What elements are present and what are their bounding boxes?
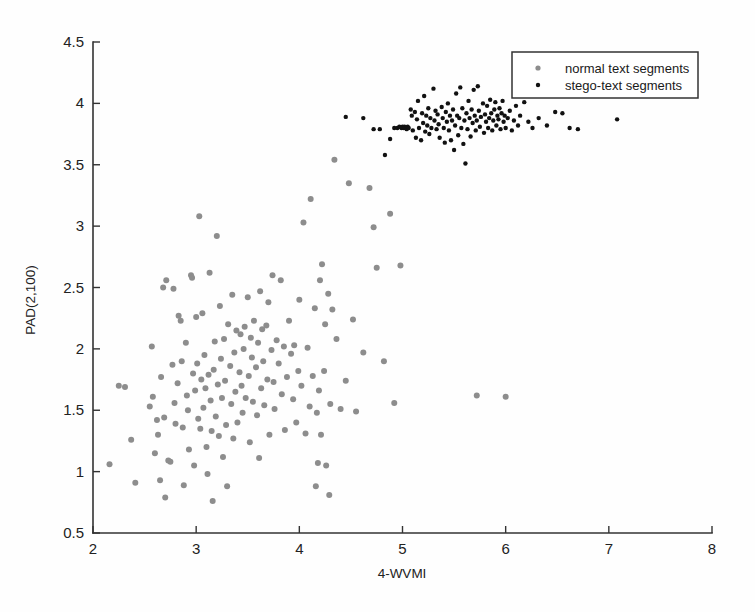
data-point bbox=[329, 307, 335, 313]
data-point bbox=[202, 385, 208, 391]
data-point bbox=[458, 85, 462, 89]
data-point bbox=[518, 113, 522, 117]
data-point bbox=[466, 99, 470, 103]
data-point bbox=[212, 339, 218, 345]
data-point bbox=[282, 427, 288, 433]
data-point bbox=[298, 383, 304, 389]
data-point bbox=[473, 113, 477, 117]
data-point bbox=[150, 394, 156, 400]
data-point bbox=[459, 126, 463, 130]
data-point bbox=[388, 137, 392, 141]
x-tick-label: 5 bbox=[398, 540, 406, 557]
data-point bbox=[186, 447, 192, 453]
data-point bbox=[313, 483, 319, 489]
data-point bbox=[431, 86, 435, 90]
data-point bbox=[270, 272, 276, 278]
data-point bbox=[467, 116, 471, 120]
data-point bbox=[331, 157, 337, 163]
data-point bbox=[228, 401, 234, 407]
data-point bbox=[158, 374, 164, 380]
data-point bbox=[452, 148, 456, 152]
data-point bbox=[245, 294, 251, 300]
data-point bbox=[411, 128, 415, 132]
data-point bbox=[243, 395, 249, 401]
data-point bbox=[172, 400, 178, 406]
data-point bbox=[274, 337, 280, 343]
data-point bbox=[325, 291, 331, 297]
data-point bbox=[189, 275, 195, 281]
data-point bbox=[307, 404, 313, 410]
data-point bbox=[514, 104, 518, 108]
data-point bbox=[254, 412, 260, 418]
data-point bbox=[422, 94, 426, 98]
data-point bbox=[209, 428, 215, 434]
data-point bbox=[255, 340, 261, 346]
data-point bbox=[318, 432, 324, 438]
data-point bbox=[248, 335, 254, 341]
data-point bbox=[451, 107, 455, 111]
data-point bbox=[442, 126, 446, 130]
data-point bbox=[476, 84, 480, 88]
data-point bbox=[423, 129, 427, 133]
data-point bbox=[391, 400, 397, 406]
data-point bbox=[288, 351, 294, 357]
data-point bbox=[410, 113, 414, 117]
data-point bbox=[490, 128, 494, 132]
data-point bbox=[406, 126, 410, 130]
data-point bbox=[322, 321, 328, 327]
data-point bbox=[264, 377, 270, 383]
data-point bbox=[478, 125, 482, 129]
data-point bbox=[486, 126, 490, 130]
data-point bbox=[116, 383, 122, 389]
data-point bbox=[312, 305, 318, 311]
data-point bbox=[152, 450, 158, 456]
data-point bbox=[437, 136, 441, 140]
data-point bbox=[465, 127, 469, 131]
data-point bbox=[229, 292, 235, 298]
data-point bbox=[191, 462, 197, 468]
y-tick-label: 1 bbox=[76, 463, 84, 480]
data-point bbox=[457, 116, 461, 120]
data-point bbox=[485, 104, 489, 108]
data-point bbox=[163, 277, 169, 283]
data-point bbox=[434, 127, 438, 131]
data-point bbox=[420, 111, 424, 115]
data-point bbox=[250, 399, 256, 405]
data-point bbox=[429, 126, 433, 130]
data-point bbox=[545, 123, 549, 127]
data-point bbox=[128, 437, 134, 443]
data-point bbox=[344, 115, 348, 119]
y-axis-title: PAD(2,100) bbox=[23, 265, 38, 335]
legend-label-stego: stego-text segments bbox=[565, 78, 683, 93]
y-tick-label: 1.5 bbox=[63, 401, 84, 418]
data-point bbox=[501, 120, 505, 124]
data-point bbox=[436, 122, 440, 126]
legend-marker-stego-icon bbox=[536, 83, 540, 87]
data-point bbox=[346, 180, 352, 186]
data-point bbox=[265, 299, 271, 305]
data-point bbox=[374, 265, 380, 271]
data-point bbox=[416, 99, 420, 103]
data-point bbox=[258, 385, 264, 391]
data-point bbox=[443, 140, 447, 144]
data-point bbox=[213, 413, 219, 419]
data-point bbox=[257, 288, 263, 294]
data-point bbox=[281, 343, 287, 349]
data-point bbox=[205, 471, 211, 477]
data-point bbox=[218, 356, 224, 362]
data-point bbox=[194, 361, 200, 367]
data-point bbox=[516, 123, 520, 127]
data-point bbox=[491, 118, 495, 122]
data-point bbox=[492, 107, 496, 111]
y-tick-label: 3.5 bbox=[63, 156, 84, 173]
data-point bbox=[203, 444, 209, 450]
data-point bbox=[371, 224, 377, 230]
data-point bbox=[279, 391, 285, 397]
data-point bbox=[417, 126, 421, 130]
data-point bbox=[506, 116, 510, 120]
series-normal-text-segments bbox=[107, 157, 509, 504]
data-point bbox=[314, 410, 320, 416]
data-point bbox=[350, 316, 356, 322]
data-point bbox=[170, 286, 176, 292]
data-point bbox=[198, 377, 204, 383]
